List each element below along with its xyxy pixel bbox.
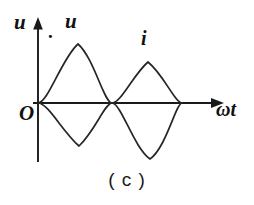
x-axis-label: ωt bbox=[216, 99, 236, 119]
curve-label-u: u bbox=[65, 11, 77, 32]
y-axis-label: u bbox=[14, 12, 26, 33]
curve-voltage-u bbox=[38, 44, 182, 159]
origin-label: O bbox=[19, 103, 34, 124]
curve-current-i bbox=[38, 62, 182, 146]
waveform-figure: u . u i O ωt ( c ) bbox=[0, 0, 254, 205]
curve-label-i: i bbox=[141, 28, 147, 48]
figure-caption: ( c ) bbox=[0, 169, 254, 191]
y-axis-separator: . bbox=[48, 22, 53, 41]
y-axis-arrow-icon bbox=[33, 17, 43, 30]
